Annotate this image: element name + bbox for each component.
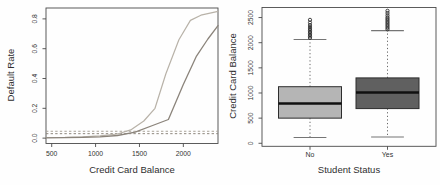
- right-x-axis-title: Student Status: [318, 164, 380, 175]
- y-tick-label: 2500: [248, 10, 255, 25]
- x-tick-label: 500: [46, 150, 58, 157]
- y-tick-label: 0.2: [32, 103, 39, 113]
- x-tick-label: 1500: [132, 150, 147, 157]
- category-label: No: [306, 151, 315, 158]
- default-rate-line-chart: 5001000150020000.00.20.40.60.8: [32, 8, 219, 157]
- x-tick-label: 2000: [176, 150, 191, 157]
- plot-frame: [46, 8, 218, 144]
- non-student-default-rate-curve: [46, 26, 218, 138]
- balance-boxplot-chart: 05001000150020002500NoYes: [248, 8, 437, 159]
- right-y-axis-title: Credit Card Balance: [227, 33, 238, 119]
- x-tick-label: 1000: [88, 150, 103, 157]
- y-tick-label: 0.4: [32, 74, 39, 84]
- y-tick-label: 0.8: [32, 14, 39, 24]
- left-y-axis-title: Default Rate: [5, 49, 16, 102]
- box-no: [279, 18, 342, 137]
- y-tick-label: 1500: [248, 60, 255, 75]
- y-tick-label: 0.6: [32, 44, 39, 54]
- plot-frame: [262, 8, 436, 147]
- box-yes: [356, 9, 419, 137]
- two-panel-statistical-figure: 5001000150020000.00.20.40.60.80500100015…: [0, 0, 440, 185]
- outlier-point: [386, 9, 389, 12]
- y-tick-label: 0.0: [32, 133, 39, 143]
- y-tick-label: 1000: [248, 85, 255, 100]
- y-tick-label: 0: [248, 141, 255, 145]
- left-x-axis-title: Credit Card Balance: [89, 164, 175, 175]
- category-label: Yes: [382, 151, 394, 158]
- y-tick-label: 2000: [248, 35, 255, 50]
- figure-canvas: 5001000150020000.00.20.40.60.80500100015…: [0, 0, 440, 185]
- y-tick-label: 500: [248, 112, 255, 124]
- student-default-rate-curve: [46, 11, 218, 137]
